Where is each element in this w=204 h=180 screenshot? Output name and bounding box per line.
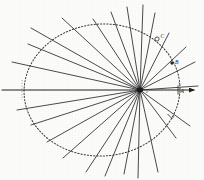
ray-line-19 bbox=[105, 90, 140, 176]
ray-line-10 bbox=[62, 18, 140, 90]
ellipse-ray-diagram: c C B A x bbox=[0, 0, 204, 180]
ray-line-1 bbox=[140, 86, 198, 90]
ray-line-4 bbox=[140, 33, 169, 90]
ray-bundle bbox=[12, 5, 198, 178]
ray-line-2 bbox=[140, 62, 195, 90]
ray-line-15 bbox=[31, 90, 140, 125]
ray-line-12 bbox=[28, 44, 140, 90]
figure-canvas: c C B A x bbox=[0, 0, 204, 180]
point-c-group: C bbox=[155, 33, 165, 41]
ray-line-8 bbox=[111, 12, 140, 90]
ray-line-9 bbox=[93, 19, 140, 90]
point-x-label: x bbox=[171, 114, 174, 119]
ray-line-13 bbox=[12, 62, 140, 90]
ray-line-7 bbox=[127, 7, 140, 90]
point-c-label: C bbox=[161, 33, 165, 39]
point-x-group: x bbox=[168, 114, 175, 119]
point-c-marker bbox=[155, 37, 159, 41]
point-b-marker bbox=[170, 61, 173, 64]
point-a-label: A bbox=[180, 88, 185, 94]
focus-marker bbox=[137, 88, 143, 93]
focus-label: c bbox=[146, 89, 148, 94]
point-b-label: B bbox=[175, 59, 179, 65]
ray-line-11 bbox=[31, 28, 140, 90]
ray-line-24 bbox=[140, 90, 190, 126]
ray-line-21 bbox=[138, 90, 140, 178]
